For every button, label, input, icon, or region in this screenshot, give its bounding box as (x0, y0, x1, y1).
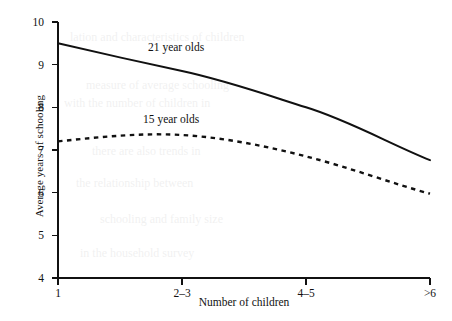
series-label-21-year-olds: 21 year olds (148, 41, 204, 53)
x-axis-ticks (58, 278, 430, 285)
chart-figure: lation and characteristics of children m… (0, 0, 452, 321)
x-axis-title: Number of children (58, 296, 430, 308)
y-axis-ticks (52, 22, 58, 278)
y-tick-label-4: 4 (16, 272, 44, 284)
y-axis-title: Average years of schooling (33, 56, 45, 256)
series-line-15-year-olds (58, 134, 430, 193)
series-label-15-year-olds: 15 year olds (143, 113, 199, 125)
chart-plot-area (0, 0, 452, 321)
y-tick-label-10: 10 (16, 16, 44, 28)
series-line-21-year-olds (58, 43, 430, 160)
